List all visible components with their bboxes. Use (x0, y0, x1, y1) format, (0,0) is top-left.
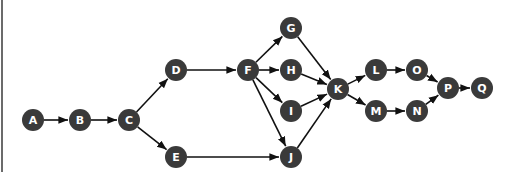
node-m: M (365, 100, 387, 122)
node-label: F (244, 64, 252, 77)
node-a: A (22, 109, 44, 131)
edge-f-g (256, 36, 283, 62)
edge-c-e (138, 127, 167, 150)
node-g: G (280, 17, 302, 39)
edge-i-k (301, 94, 327, 106)
node-j: J (280, 146, 302, 168)
edge-o-p (427, 76, 438, 83)
edge-h-k (301, 74, 327, 84)
edges-layer (44, 36, 470, 157)
nodes-layer: ABCDEFGHIJKLMONPQ (22, 17, 493, 168)
network-diagram: ABCDEFGHIJKLMONPQ (0, 0, 514, 178)
node-label: I (289, 105, 293, 118)
node-label: D (171, 64, 180, 77)
node-e: E (165, 146, 187, 168)
node-l: L (365, 59, 387, 81)
node-label: E (172, 151, 180, 164)
node-label: N (412, 105, 421, 118)
node-label: J (288, 151, 293, 164)
edge-c-d (137, 79, 168, 112)
node-d: D (165, 59, 187, 81)
node-label: L (372, 64, 379, 77)
edge-n-p (426, 95, 439, 104)
node-label: B (76, 114, 84, 127)
node-i: I (280, 100, 302, 122)
edge-k-m (348, 95, 366, 106)
edge-g-k (298, 37, 331, 80)
node-h: H (280, 59, 302, 81)
node-n: N (406, 100, 428, 122)
node-label: P (444, 82, 452, 95)
node-q: Q (471, 77, 493, 99)
node-label: C (125, 114, 133, 127)
node-label: K (334, 83, 343, 96)
node-label: O (412, 64, 421, 77)
node-label: H (286, 64, 295, 77)
node-label: M (371, 105, 382, 118)
node-k: K (327, 78, 349, 100)
node-label: G (286, 22, 295, 35)
node-label: A (29, 114, 38, 127)
node-f: F (237, 59, 259, 81)
node-p: P (437, 77, 459, 99)
node-b: B (69, 109, 91, 131)
node-o: O (406, 59, 428, 81)
edge-k-l (348, 75, 366, 84)
node-label: Q (477, 82, 486, 95)
node-c: C (118, 109, 140, 131)
edge-f-i (256, 78, 282, 103)
